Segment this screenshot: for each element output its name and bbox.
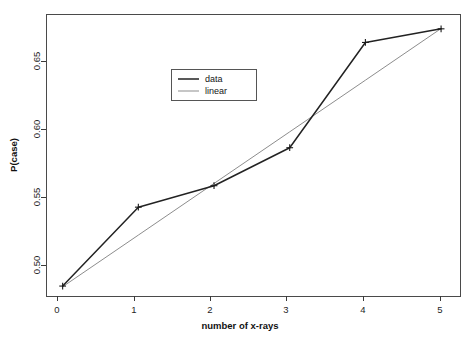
legend-label-data: data bbox=[205, 74, 223, 84]
y-axis-title: P(case) bbox=[8, 138, 19, 172]
xray-probability-line-chart: 0.50 0.55 0.60 0.65 P(case) 0 bbox=[0, 0, 470, 340]
y-tick-label: 0.60 bbox=[31, 120, 42, 139]
chart-legend: data linear bbox=[171, 69, 256, 100]
x-tick-label: 4 bbox=[360, 304, 365, 315]
y-tick-label: 0.65 bbox=[31, 52, 42, 71]
x-tick-label: 2 bbox=[207, 304, 212, 315]
x-tick-label: 0 bbox=[54, 304, 59, 315]
chart-background bbox=[0, 0, 470, 340]
legend-label-linear: linear bbox=[205, 86, 227, 96]
x-tick-label: 5 bbox=[437, 304, 442, 315]
x-tick-label: 1 bbox=[131, 304, 136, 315]
y-tick-label: 0.55 bbox=[31, 188, 42, 207]
x-axis-title: number of x-rays bbox=[201, 320, 278, 331]
y-tick-label: 0.50 bbox=[31, 256, 42, 275]
x-tick-label: 3 bbox=[283, 304, 288, 315]
chart-figure: 0.50 0.55 0.60 0.65 P(case) 0 bbox=[0, 0, 470, 340]
